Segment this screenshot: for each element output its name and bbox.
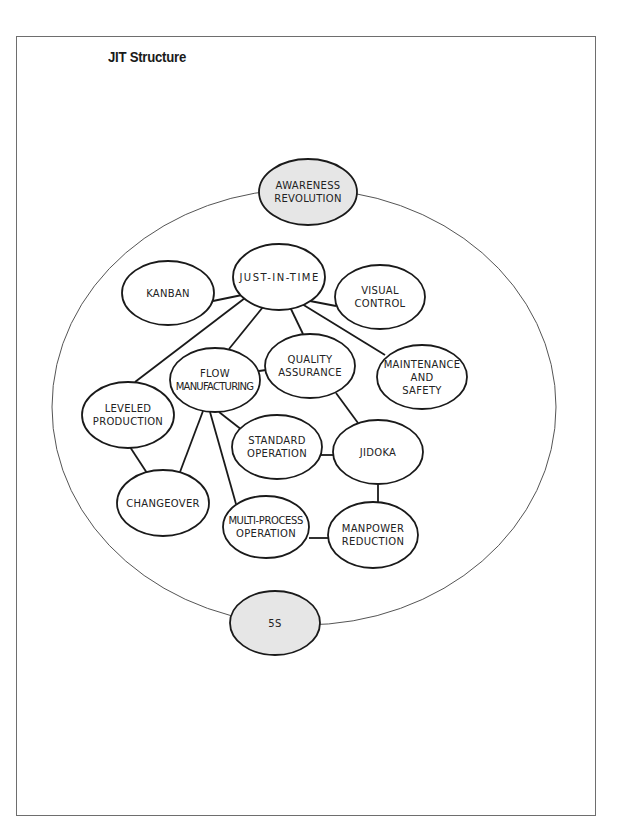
node-label: CONTROL [355,298,406,309]
jit-structure-diagram: AWARENESSREVOLUTIONJUST-IN-TIMEKANBANVIS… [0,0,621,837]
node-maintenance: MAINTENANCEANDSAFETY [377,345,467,409]
node-label: STANDARD [248,435,305,446]
node-kanban: KANBAN [122,261,214,325]
node-shape [328,502,418,568]
node-label: SAFETY [402,385,442,396]
node-label: ASSURANCE [278,367,342,378]
edge-quality-jidoka [336,393,358,423]
node-jidoka: JIDOKA [333,420,423,484]
node-label: PRODUCTION [93,416,163,427]
edge-jit-visual [310,301,336,306]
node-label: AWARENESS [276,180,341,191]
node-jit: JUST-IN-TIME [233,244,325,310]
node-visual: VISUALCONTROL [335,265,425,329]
node-shape [259,159,357,225]
edge-flow-changeover [180,411,203,472]
node-leveled: LEVELEDPRODUCTION [82,382,174,448]
node-label: REDUCTION [342,536,404,547]
node-label: VISUAL [361,285,399,296]
edge-leveled-changeover [130,447,147,473]
node-shape [82,382,174,448]
node-label: MAINTENANCE [384,359,461,370]
node-label: AND [411,372,434,383]
node-label: FLOW [200,368,230,379]
node-shape [232,415,322,479]
edge-jit-flow [229,307,263,349]
nodes-group: AWARENESSREVOLUTIONJUST-IN-TIMEKANBANVIS… [82,159,467,655]
node-multi: MULTI-PROCESSOPERATION [223,496,309,558]
node-shape [170,348,260,412]
node-label: 5S [268,618,281,629]
node-label: MANUFACTURING [176,381,255,392]
node-manpower: MANPOWERREDUCTION [328,502,418,568]
node-label: JIDOKA [359,447,397,458]
node-shape [265,334,355,398]
node-quality: QUALITYASSURANCE [265,334,355,398]
node-shape [223,496,309,558]
node-label: QUALITY [288,354,333,365]
node-standard: STANDARDOPERATION [232,415,322,479]
node-label: OPERATION [247,448,307,459]
node-label: MANPOWER [342,523,404,534]
node-changeover: CHANGEOVER [117,470,209,536]
edge-jit-kanban [213,295,242,301]
node-label: MULTI-PROCESS [228,515,303,526]
node-label: CHANGEOVER [126,498,200,509]
node-label: REVOLUTION [274,193,342,204]
node-label: KANBAN [146,288,190,299]
node-label: OPERATION [236,528,296,539]
node-flow: FLOWMANUFACTURING [170,348,260,412]
node-awareness: AWARENESSREVOLUTION [259,159,357,225]
edge-flow-standard [219,412,242,430]
edge-jit-quality [290,307,303,334]
node-label: JUST-IN-TIME [238,272,318,283]
node-shape [335,265,425,329]
node-label: LEVELED [105,403,152,414]
edge-flow-multi [210,412,236,504]
node-fives: 5S [230,591,320,655]
